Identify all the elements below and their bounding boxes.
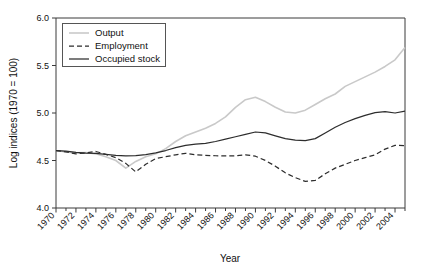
x-tick-label: 2002: [354, 210, 375, 231]
x-tick-label: 1990: [235, 210, 256, 231]
x-tick-label: 1998: [314, 210, 335, 231]
x-tick-label: 1982: [155, 210, 176, 231]
x-tick-label: 1980: [135, 210, 156, 231]
x-tick-label: 1978: [115, 210, 136, 231]
y-axis-title: Log indices (1970 = 100): [8, 58, 19, 168]
line-chart: 4.04.55.05.56.0 197019721974197619781980…: [0, 0, 424, 270]
x-tick-label: 1988: [215, 210, 236, 231]
series-lines: [56, 47, 405, 181]
x-tick-label: 1994: [274, 210, 295, 231]
y-axis-ticks: [52, 18, 56, 208]
x-tick-label: 1970: [35, 210, 56, 231]
x-tick-label: 2004: [374, 210, 395, 231]
x-axis-tick-labels: 1970197219741976197819801982198419861988…: [35, 210, 395, 231]
y-tick-label: 4.5: [36, 156, 49, 166]
legend-label-occupied-stock: Occupied stock: [95, 53, 160, 64]
x-axis-title: Year: [220, 253, 241, 264]
x-tick-label: 1986: [195, 210, 216, 231]
x-tick-label: 2000: [334, 210, 355, 231]
series-line-occupied-stock: [56, 111, 405, 156]
y-tick-label: 5.0: [36, 108, 49, 118]
legend-label-employment: Employment: [95, 40, 148, 51]
x-tick-label: 1976: [95, 210, 116, 231]
x-tick-label: 1996: [294, 210, 315, 231]
legend: OutputEmploymentOccupied stock: [63, 24, 166, 67]
x-tick-label: 1972: [55, 210, 76, 231]
series-line-employment: [56, 145, 405, 181]
legend-label-output: Output: [95, 27, 124, 38]
figure-container: 4.04.55.05.56.0 197019721974197619781980…: [0, 0, 424, 270]
x-tick-label: 1992: [255, 210, 276, 231]
y-axis-tick-labels: 4.04.55.05.56.0: [36, 13, 49, 213]
y-tick-label: 6.0: [36, 13, 49, 23]
x-tick-label: 1984: [175, 210, 196, 231]
y-tick-label: 5.5: [36, 61, 49, 71]
x-tick-label: 1974: [75, 210, 96, 231]
